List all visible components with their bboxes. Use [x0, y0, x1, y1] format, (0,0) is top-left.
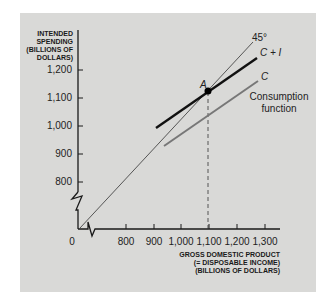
line-45-degree [80, 42, 253, 228]
x-axis [78, 222, 280, 236]
x-axis-title: GROSS DOMESTIC PRODUCT (= DISPOSABLE INC… [150, 251, 280, 275]
x-tick-label: 1,300 [245, 236, 285, 247]
x-ticks [126, 224, 265, 229]
label-c-plus-i: C + I [260, 47, 281, 58]
y-tick-label: 1,200 [32, 64, 72, 75]
y-axis-title: INTENDED SPENDING (BILLIONS OF DOLLARS) [22, 30, 73, 62]
y-tick-label: 800 [32, 176, 72, 187]
y-ticks [78, 70, 83, 182]
label-45-degree: 45° [252, 32, 267, 43]
label-point-a: A [200, 79, 207, 90]
origin-label: 0 [52, 236, 92, 247]
y-axis-break [72, 192, 82, 229]
y-tick-label: 1,100 [32, 92, 72, 103]
label-c: C [261, 71, 268, 82]
y-tick-label: 900 [32, 148, 72, 159]
y-tick-label: 1,000 [32, 120, 72, 131]
label-consumption-function: Consumption function [244, 91, 314, 115]
